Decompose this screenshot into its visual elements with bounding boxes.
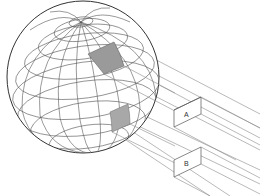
box-a-label: A <box>184 111 189 118</box>
box-b: B <box>174 147 201 177</box>
globe-projection-diagram: A B <box>0 0 260 196</box>
box-b-label: B <box>184 160 189 167</box>
box-a: A <box>174 97 201 127</box>
